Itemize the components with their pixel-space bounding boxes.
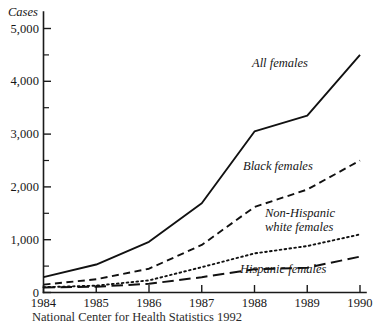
x-tick-label: 1986 bbox=[121, 297, 177, 310]
series-label-all-females: All females bbox=[252, 56, 308, 70]
chart-plot-area bbox=[0, 0, 387, 321]
x-tick-label: 1985 bbox=[68, 297, 124, 310]
x-tick-label: 1984 bbox=[16, 297, 72, 310]
series-label-black-females: Black females bbox=[243, 159, 313, 173]
x-axis-ticks bbox=[44, 285, 361, 293]
y-tick-label: 5,000 bbox=[0, 23, 39, 36]
y-axis-ticks bbox=[44, 29, 52, 293]
x-tick-label: 1988 bbox=[227, 297, 283, 310]
series-label-hispanic-females: Hispanic females bbox=[240, 262, 326, 276]
y-tick-label: 3,000 bbox=[0, 128, 39, 141]
y-tick-label: 4,000 bbox=[0, 75, 39, 88]
x-tick-label: 1989 bbox=[279, 297, 335, 310]
y-axis-title: Cases bbox=[8, 6, 38, 19]
chart-page: Cases 01,0002,0003,0004,0005,000 1984198… bbox=[0, 0, 387, 321]
x-tick-label: 1987 bbox=[174, 297, 230, 310]
x-tick-label: 1990 bbox=[332, 297, 387, 310]
series-label-non-hispanic-white-females: Non-Hispanic white females bbox=[265, 206, 335, 234]
y-tick-label: 2,000 bbox=[0, 181, 39, 194]
chart-source-caption: National Center for Health Statistics 19… bbox=[32, 311, 242, 321]
y-tick-label: 1,000 bbox=[0, 234, 39, 247]
series-label-line2: white females bbox=[265, 220, 333, 234]
series-label-line1: Non-Hispanic bbox=[265, 206, 335, 220]
